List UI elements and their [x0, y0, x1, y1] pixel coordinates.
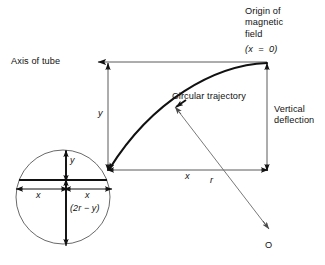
inset-circle — [16, 150, 112, 246]
circular-trajectory-curve — [109, 63, 267, 170]
y-deflection-label: y — [98, 108, 103, 119]
origin-of-magnetic-field-label: Origin of magnetic field — [245, 6, 283, 40]
circular-trajectory-label: Circular trajectory — [172, 91, 246, 102]
radius-line — [175, 107, 269, 229]
vertical-deflection-label: Vertical deflection — [274, 104, 314, 127]
radius-label: r — [210, 175, 213, 186]
x-horizontal-label: x — [185, 171, 190, 182]
physics-diagram-figure: Origin of magnetic field (x = 0) Axis of… — [0, 0, 325, 265]
inset-y-label: y — [70, 155, 75, 166]
inset-2r-minus-y-label: (2r − y) — [70, 203, 100, 214]
x-equals-zero-label: (x = 0) — [245, 44, 277, 55]
axis-of-tube-label: Axis of tube — [11, 56, 60, 67]
inset-x-left-label: x — [36, 190, 41, 201]
center-point-label: O — [265, 240, 272, 251]
inset-x-right-label: x — [85, 190, 90, 201]
